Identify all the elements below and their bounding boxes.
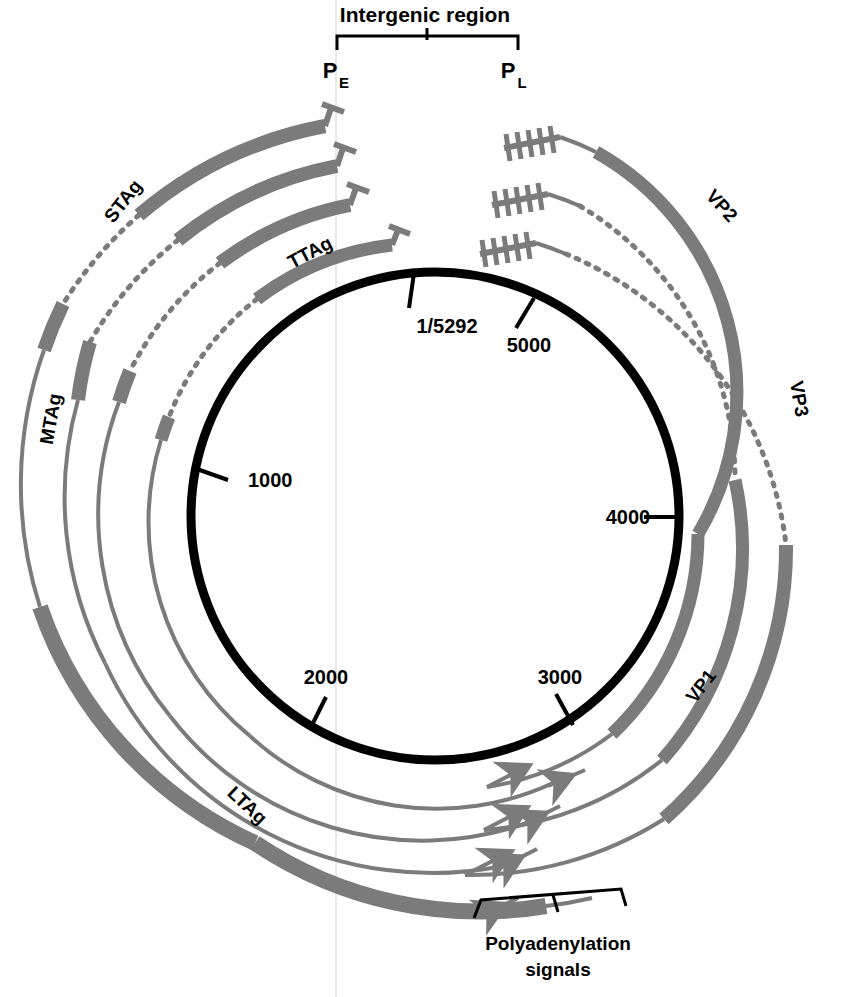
mtag-cap-tbar	[334, 144, 356, 152]
ttag-terminus-arrow	[548, 770, 585, 786]
vp1-exon-1	[664, 545, 786, 819]
stag-cap-tbar	[347, 184, 369, 192]
vp3-leader-link	[548, 194, 580, 206]
vp2-exon-2	[612, 534, 698, 734]
pl-glyph: P	[501, 58, 516, 83]
ltag-exon-2	[44, 304, 63, 350]
vp1-terminus-arrow	[465, 851, 512, 875]
vp3-leader-repeat-comb	[492, 183, 548, 218]
position-label-4000: 4000	[606, 506, 651, 528]
position-label-1-5292: 1/5292	[416, 315, 477, 337]
vp2-leader-repeat-comb	[504, 126, 560, 161]
vp1-leader-repeat-comb	[480, 232, 536, 267]
transcript-label-vp2: VP2	[702, 185, 742, 226]
position-label-5000: 5000	[507, 334, 552, 356]
polyadenylation-label-line1: Polyadenylation	[485, 933, 631, 954]
position-label-1000: 1000	[248, 469, 293, 491]
mtag-terminus-arrow	[498, 849, 537, 869]
ltag-exon-4	[255, 843, 546, 912]
position-label-2000: 2000	[304, 666, 349, 688]
vp2-leader-link	[560, 137, 596, 152]
ltag-tail-a	[21, 350, 44, 607]
promoter-late-label: P L	[501, 58, 527, 91]
intergenic-region-label: Intergenic region	[340, 3, 510, 26]
ttag-cap-tbar	[389, 226, 410, 234]
genome-map-figure: Intergenic region P E P L TTAg STAg	[0, 0, 850, 997]
ttag-exon-2	[161, 417, 169, 440]
stag-intron-1	[130, 263, 220, 371]
stag-exon-2	[119, 371, 130, 402]
ltag-intron-1	[63, 215, 139, 304]
tick-2000	[310, 697, 326, 729]
ltag-cap-stem	[325, 108, 331, 126]
tick-5000	[516, 298, 534, 328]
transcript-label-mtag: MTAg	[36, 392, 66, 446]
stag-cap-stem	[350, 188, 356, 205]
transcript-ttag[interactable]: TTAg	[148, 226, 585, 809]
pl-subscript: L	[517, 74, 526, 91]
pe-glyph: P	[323, 58, 338, 83]
mtag-exon-2	[78, 342, 90, 400]
mtag-cap-stem	[337, 148, 343, 166]
ltag-cap-tbar	[322, 104, 344, 112]
intergenic-region-annotation: Intergenic region	[337, 3, 518, 50]
transcript-label-stag: STAg	[100, 176, 146, 227]
polyadenylation-label-line2: signals	[525, 959, 590, 980]
mtag-intron-1	[90, 240, 178, 342]
vp1-leader-link	[536, 243, 566, 254]
transcript-ltag[interactable]: LTAg	[21, 104, 592, 916]
polyadenylation-annotation: Polyadenylation signals	[474, 889, 631, 980]
pe-subscript: E	[339, 74, 349, 91]
genome-map-canvas: Intergenic region P E P L TTAg STAg	[0, 0, 850, 997]
position-label-3000: 3000	[538, 666, 583, 688]
vp3-tail	[484, 760, 662, 830]
transcript-label-vp3: VP3	[786, 379, 813, 418]
tick-1-5292	[409, 273, 414, 308]
